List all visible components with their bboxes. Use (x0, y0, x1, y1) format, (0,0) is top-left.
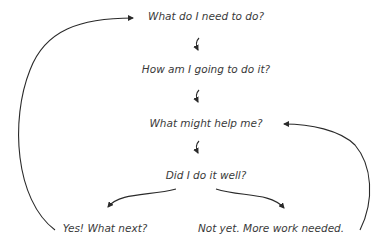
arrow-notyet-to-help (284, 124, 370, 230)
arrow-well-to-notyet (216, 189, 284, 208)
node-need: What do I need to do? (148, 10, 264, 22)
arrow-need-to-how (196, 38, 199, 50)
node-notyet: Not yet. More work needed. (198, 222, 344, 234)
arrow-how-to-help (196, 90, 199, 102)
node-help: What might help me? (149, 117, 262, 129)
node-well: Did I do it well? (166, 169, 247, 181)
arrow-yes-to-need (19, 18, 133, 230)
node-yes: Yes! What next? (63, 222, 148, 234)
node-how: How am I going to do it? (142, 63, 270, 75)
arrow-well-to-yes (108, 189, 176, 207)
arrow-help-to-well (196, 141, 199, 153)
